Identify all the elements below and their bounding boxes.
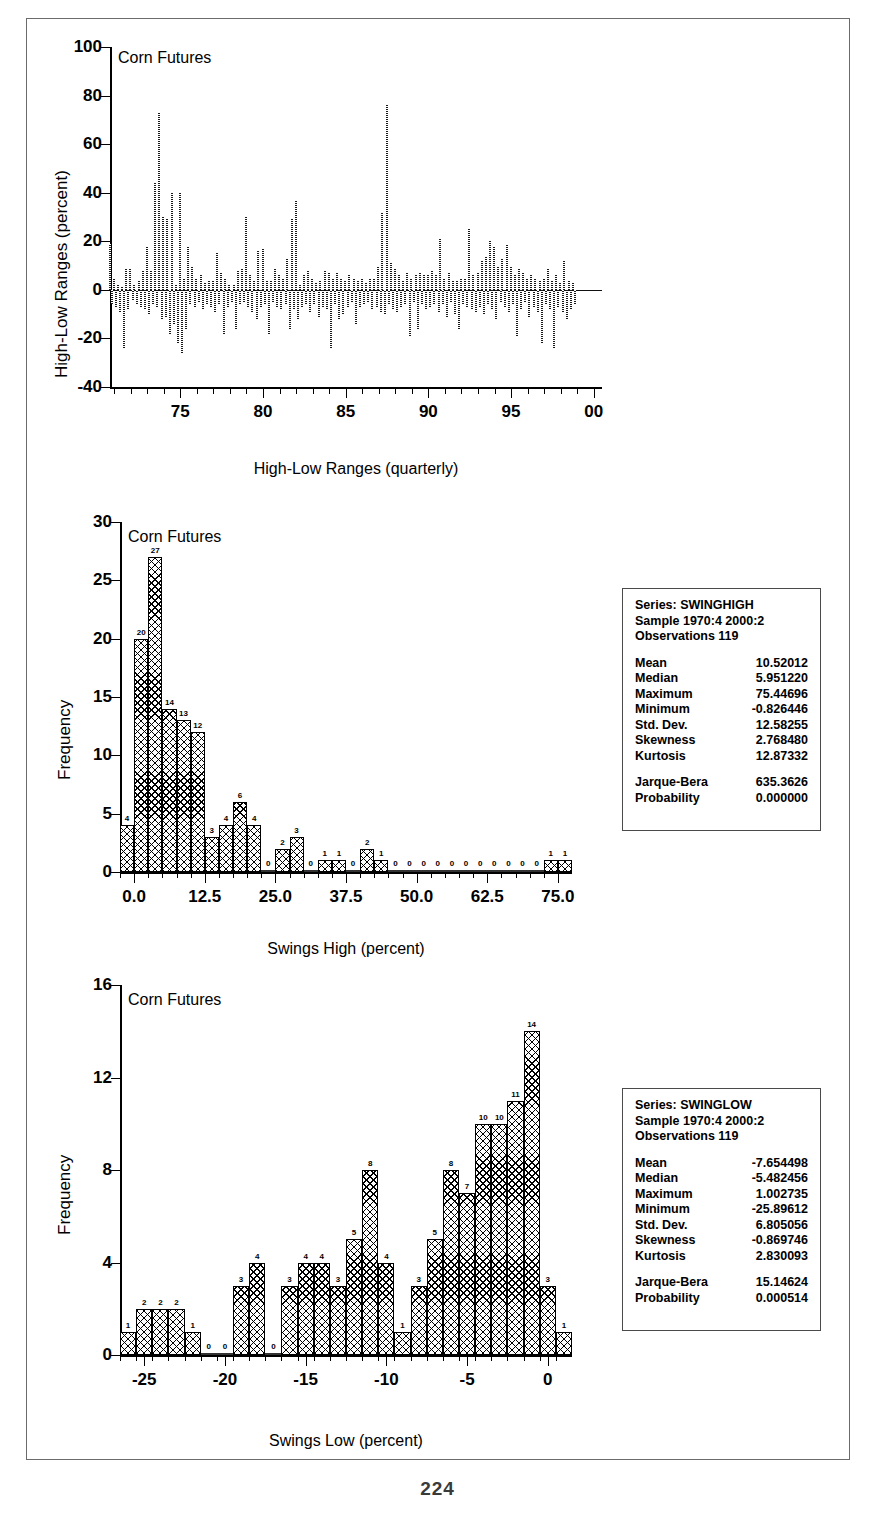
stats-row: Minimum -0.826446 [635, 702, 808, 718]
stats-value: 0.000514 [756, 1291, 808, 1307]
stats-value: 635.3626 [756, 775, 808, 791]
stats-key: Std. Dev. [635, 1218, 688, 1234]
chart3-x-minor-tick [540, 1355, 541, 1361]
stats-row: Skewness 2.768480 [635, 733, 808, 749]
stats-row: Probability 0.000000 [635, 791, 808, 807]
chart3-y-tick-label: 16 [60, 976, 112, 993]
stats-row: Jarque-Bera 15.14624 [635, 1275, 808, 1291]
chart3-y-axis [120, 985, 122, 1355]
chart3-y-tick-label: 12 [60, 1069, 112, 1086]
stats-row: Mean -7.654498 [635, 1156, 808, 1172]
chart3-bar [556, 1332, 572, 1355]
stats-key: Jarque-Bera [635, 1275, 708, 1291]
chart3-bar-count: 8 [357, 1160, 383, 1168]
chart3-bar-empty [265, 1353, 281, 1355]
stats-value: 6.805056 [756, 1218, 808, 1234]
stats-key: Mean [635, 1156, 667, 1172]
stats-spacer [635, 645, 808, 656]
stats-box-swinglow: Series: SWINGLOW Sample 1970:4 2000:2 Ob… [622, 1088, 821, 1331]
chart3-x-tick [467, 1355, 468, 1366]
chart3-x-minor-tick [507, 1355, 508, 1361]
stats-row: Maximum 75.44696 [635, 687, 808, 703]
chart3-bar-empty [201, 1353, 217, 1355]
chart3-bar [249, 1263, 265, 1356]
stats-key: Kurtosis [635, 749, 686, 765]
stats-value: 15.14624 [756, 1275, 808, 1291]
stats-value: 2.768480 [756, 733, 808, 749]
stats-value: 5.951220 [756, 671, 808, 687]
stats-box-swinghigh: Series: SWINGHIGH Sample 1970:4 2000:2 O… [622, 588, 821, 831]
chart3-x-minor-tick [411, 1355, 412, 1361]
chart3-x-minor-tick [168, 1355, 169, 1361]
chart3-bar [443, 1170, 459, 1355]
chart3-x-tick-label: -15 [266, 1371, 346, 1388]
stats-key: Jarque-Bera [635, 775, 708, 791]
chart3-bar-count: 1 [180, 1322, 206, 1330]
chart3-bar [475, 1124, 491, 1355]
chart3-bar [491, 1124, 507, 1355]
chart3-bar-count: 8 [438, 1160, 464, 1168]
page-number: 224 [0, 1478, 875, 1500]
chart3-x-tick [548, 1355, 549, 1366]
chart3-bar-count: 1 [551, 1322, 577, 1330]
chart3-bar [362, 1170, 378, 1355]
chart3-y-tick-label: 4 [60, 1254, 112, 1271]
stats-row: Skewness -0.869746 [635, 1233, 808, 1249]
stats-series-label: Series: SWINGHIGH [635, 598, 808, 614]
stats-key: Kurtosis [635, 1249, 686, 1265]
chart3-x-minor-tick [491, 1355, 492, 1361]
stats-value: 10.52012 [756, 656, 808, 672]
chart3-x-tick [386, 1355, 387, 1366]
chart3-x-minor-tick [475, 1355, 476, 1361]
stats-value: -5.482456 [752, 1171, 808, 1187]
chart3-bar [152, 1309, 168, 1355]
chart3-bar [136, 1309, 152, 1355]
stats-row: Probability 0.000514 [635, 1291, 808, 1307]
stats-key: Median [635, 1171, 678, 1187]
stats-value: -25.89612 [752, 1202, 808, 1218]
chart3-x-minor-tick [265, 1355, 266, 1361]
chart3-y-tick-label: 8 [60, 1161, 112, 1178]
chart3-y-tick [111, 1355, 120, 1356]
chart3-y-tick [111, 985, 120, 986]
stats-observations-label: Observations 119 [635, 1129, 808, 1145]
stats-spacer [635, 1145, 808, 1156]
stats-key: Minimum [635, 1202, 690, 1218]
chart3-bar-count: 14 [519, 1021, 545, 1029]
chart3-x-minor-tick [346, 1355, 347, 1361]
chart3-bar [330, 1286, 346, 1355]
chart3-x-minor-tick [185, 1355, 186, 1361]
stats-key: Maximum [635, 687, 693, 703]
stats-value: 12.87332 [756, 749, 808, 765]
stats-sample-label: Sample 1970:4 2000:2 [635, 1114, 808, 1130]
stats-value: -7.654498 [752, 1156, 808, 1172]
stats-key: Median [635, 671, 678, 687]
stats-value: -0.826446 [752, 702, 808, 718]
chart3-bar [281, 1286, 297, 1355]
chart3-x-axis-title: Swings Low (percent) [120, 1432, 572, 1450]
chart3-bar [394, 1332, 410, 1355]
chart3-x-minor-tick [314, 1355, 315, 1361]
stats-key: Probability [635, 791, 700, 807]
stats-sample-label: Sample 1970:4 2000:2 [635, 614, 808, 630]
chart3-x-minor-tick [201, 1355, 202, 1361]
stats-key: Probability [635, 1291, 700, 1307]
chart3-x-minor-tick [378, 1355, 379, 1361]
chart3-x-minor-tick [443, 1355, 444, 1361]
chart3-x-tick-label: 0 [508, 1371, 588, 1388]
chart3-x-minor-tick [556, 1355, 557, 1361]
chart3-bar [540, 1286, 556, 1355]
chart3-bar [233, 1286, 249, 1355]
chart3-x-minor-tick [233, 1355, 234, 1361]
chart3-y-tick [111, 1170, 120, 1171]
stats-row: Jarque-Bera 635.3626 [635, 775, 808, 791]
chart3-y-tick [111, 1263, 120, 1264]
stats-value: 12.58255 [756, 718, 808, 734]
chart3-x-minor-tick [362, 1355, 363, 1361]
chart3-bar [346, 1239, 362, 1355]
stats-key: Maximum [635, 1187, 693, 1203]
stats-series-label: Series: SWINGLOW [635, 1098, 808, 1114]
chart3-x-minor-tick [298, 1355, 299, 1361]
chart3-x-minor-tick [217, 1355, 218, 1361]
chart3-x-tick-label: -5 [427, 1371, 507, 1388]
